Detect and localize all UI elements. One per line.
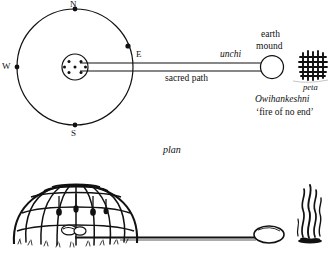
earth-mound-circle — [261, 56, 284, 79]
sacred-path-label: sacred path — [165, 74, 208, 84]
fire-of-no-end-label: ‘fire of no end’ — [256, 108, 314, 118]
owihankeshni-label: Owihankeshni — [255, 95, 309, 105]
figure-canvas: N W S E unchi earth mound sacred path pe… — [0, 0, 331, 253]
elevation-smoke-flame-icon — [297, 185, 321, 238]
unchi-label: unchi — [220, 50, 241, 60]
elevation-fire-base — [298, 237, 322, 243]
peta-label: peta — [303, 83, 318, 92]
fireplace-stone-dot — [63, 66, 66, 69]
compass-label-west: W — [2, 62, 11, 71]
peta-crosshatch-fire-grid — [299, 51, 327, 80]
compass-label-north: N — [70, 0, 77, 9]
plan-view-drawing — [0, 0, 331, 253]
plan-caption: plan — [163, 145, 181, 155]
lodge-ground-grass — [18, 239, 128, 247]
fireplace-stone-dot — [74, 66, 77, 69]
lodge-interior-stones — [62, 225, 87, 235]
earth-mound-label-line1: earth — [261, 30, 280, 40]
elevation-earth-mound — [254, 226, 284, 243]
compass-label-east: E — [136, 50, 142, 59]
fireplace-stone-dot — [84, 66, 87, 69]
compass-label-south: S — [71, 129, 76, 138]
compass-dot-west — [15, 65, 20, 70]
lodge-hanging-ties — [57, 194, 108, 215]
fireplace-stone-dot — [68, 60, 71, 63]
fireplace-stone-dot — [68, 71, 71, 74]
compass-dot-east — [125, 43, 130, 48]
compass-dot-south — [73, 123, 78, 128]
earth-mound-label-line2: mound — [256, 42, 282, 52]
